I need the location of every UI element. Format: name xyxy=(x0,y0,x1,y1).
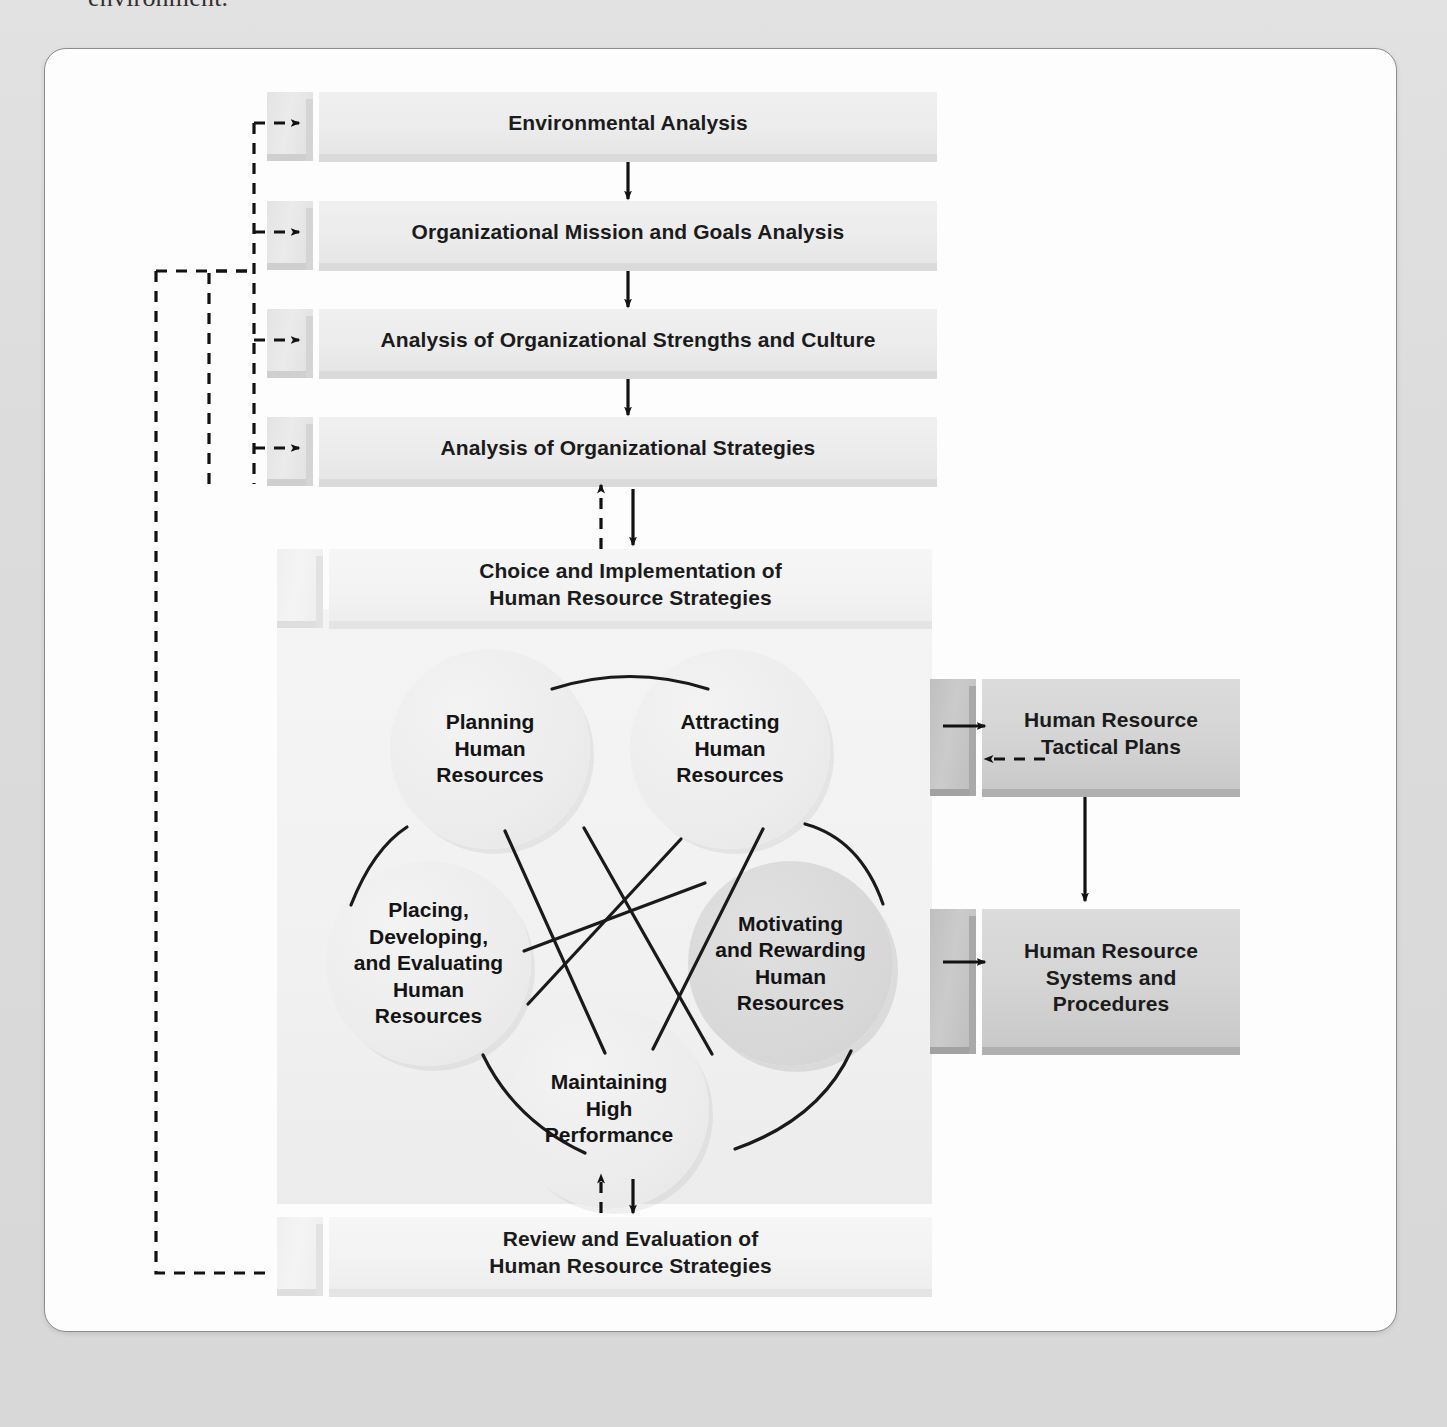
output-box-tactical-plans[interactable]: Human Resource Tactical Plans xyxy=(930,679,1240,789)
box-label-line2: Human Resource Strategies xyxy=(489,586,772,609)
circle-label: Placing, Developing, and Evaluating Huma… xyxy=(354,897,503,1029)
box-side-tab xyxy=(267,417,313,479)
process-box-environmental-analysis[interactable]: Environmental Analysis xyxy=(267,92,937,154)
box-side-tab xyxy=(267,92,313,154)
circle-attracting-human-resources[interactable]: Attracting Human Resources xyxy=(630,649,830,849)
circle-label-line3: and Evaluating xyxy=(354,951,503,974)
circle-label-line1: Attracting xyxy=(680,710,779,733)
box-label: Analysis of Organizational Strengths and… xyxy=(381,327,876,354)
box-face: Environmental Analysis xyxy=(319,92,937,154)
feedback-branch-to-mission-riser xyxy=(209,271,254,484)
circle-label-line3: Human xyxy=(755,965,826,988)
circle-label-line1: Maintaining xyxy=(551,1070,668,1093)
output-box-systems-procedures[interactable]: Human Resource Systems and Procedures xyxy=(930,909,1240,1047)
circle-label-line2: Developing, xyxy=(369,925,488,948)
circle-label-line1: Planning xyxy=(446,710,535,733)
circle-label-line1: Placing, xyxy=(388,898,469,921)
circle-label: Motivating and Rewarding Human Resources xyxy=(715,911,866,1017)
box-face: Analysis of Organizational Strategies xyxy=(319,417,937,479)
box-label: Human Resource Tactical Plans xyxy=(1024,707,1198,761)
diagram-frame: Environmental Analysis Organizational Mi… xyxy=(44,48,1397,1332)
box-face: Human Resource Tactical Plans xyxy=(982,679,1240,789)
box-label: Review and Evaluation of Human Resource … xyxy=(489,1226,772,1280)
circle-label-line3: Resources xyxy=(436,763,543,786)
box-label: Analysis of Organizational Strategies xyxy=(441,435,816,462)
circle-label: Planning Human Resources xyxy=(436,709,543,788)
circle-label-line4: Resources xyxy=(737,991,844,1014)
box-label: Environmental Analysis xyxy=(508,110,748,137)
circle-label-line5: Resources xyxy=(375,1004,482,1027)
box-side-tab xyxy=(267,309,313,371)
process-box-review-evaluation[interactable]: Review and Evaluation of Human Resource … xyxy=(277,1217,932,1289)
box-face: Organizational Mission and Goals Analysi… xyxy=(319,201,937,263)
box-side-tab xyxy=(277,1217,323,1289)
box-label-line3: Procedures xyxy=(1053,992,1170,1015)
box-side-tab xyxy=(930,679,976,789)
box-label-line1: Human Resource xyxy=(1024,708,1198,731)
circle-label: Maintaining High Performance xyxy=(545,1069,673,1148)
box-label-line1: Human Resource xyxy=(1024,939,1198,962)
circle-motivating-rewarding-human-resources[interactable]: Motivating and Rewarding Human Resources xyxy=(688,861,893,1066)
process-box-choice-implementation[interactable]: Choice and Implementation of Human Resou… xyxy=(277,549,932,621)
circle-label-line2: and Rewarding xyxy=(715,938,866,961)
process-box-strengths-culture[interactable]: Analysis of Organizational Strengths and… xyxy=(267,309,937,371)
feedback-outer-riser xyxy=(156,271,266,1273)
box-label-line1: Choice and Implementation of xyxy=(479,559,782,582)
process-box-organizational-strategies[interactable]: Analysis of Organizational Strategies xyxy=(267,417,937,479)
box-face: Analysis of Organizational Strengths and… xyxy=(319,309,937,371)
box-side-tab xyxy=(930,909,976,1047)
circle-label-line2: High xyxy=(586,1097,633,1120)
box-side-tab xyxy=(277,549,323,621)
box-label-line2: Human Resource Strategies xyxy=(489,1254,772,1277)
circle-planning-human-resources[interactable]: Planning Human Resources xyxy=(390,649,590,849)
box-label: Organizational Mission and Goals Analysi… xyxy=(412,219,845,246)
box-label-line1: Review and Evaluation of xyxy=(503,1227,759,1250)
circle-placing-developing-evaluating[interactable]: Placing, Developing, and Evaluating Huma… xyxy=(326,861,531,1066)
feedback-loop-lines xyxy=(156,123,266,1273)
circle-label-line4: Human xyxy=(393,978,464,1001)
box-face: Choice and Implementation of Human Resou… xyxy=(329,549,932,621)
box-label: Human Resource Systems and Procedures xyxy=(1024,938,1198,1019)
circle-label-line1: Motivating xyxy=(738,912,843,935)
box-face: Human Resource Systems and Procedures xyxy=(982,909,1240,1047)
box-face: Review and Evaluation of Human Resource … xyxy=(329,1217,932,1289)
circle-label-line2: Human xyxy=(454,737,525,760)
circle-label-line3: Performance xyxy=(545,1123,673,1146)
circle-label: Attracting Human Resources xyxy=(676,709,783,788)
caption-fragment: environment. xyxy=(88,0,228,13)
process-box-mission-goals[interactable]: Organizational Mission and Goals Analysi… xyxy=(267,201,937,263)
box-label-line2: Systems and xyxy=(1046,966,1177,989)
circle-label-line2: Human xyxy=(694,737,765,760)
circle-label-line3: Resources xyxy=(676,763,783,786)
box-label: Choice and Implementation of Human Resou… xyxy=(479,558,782,612)
circle-maintaining-high-performance[interactable]: Maintaining High Performance xyxy=(509,1009,709,1209)
box-side-tab xyxy=(267,201,313,263)
feedback-branch-arrows xyxy=(254,123,299,448)
box-label-line2: Tactical Plans xyxy=(1041,735,1181,758)
